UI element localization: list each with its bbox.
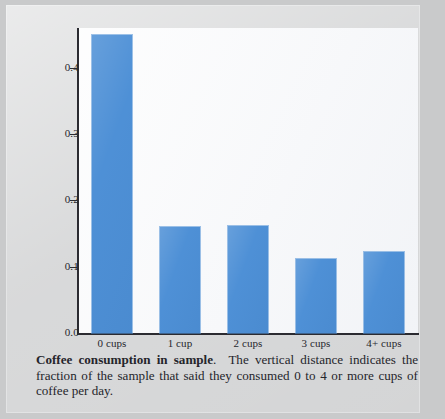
caption-title: Coffee consumption in sample [36,352,213,367]
y-tick-mark [70,134,79,135]
x-tick-label-3-cups: 3 cups [282,338,350,349]
bar-gloss [296,259,336,333]
x-axis-line [77,333,419,335]
x-tick-label-1-cup: 1 cup [146,338,214,349]
x-tick-label-4-cups: 4+ cups [350,338,418,349]
bar-gloss [364,252,404,333]
y-tick-0-0: 0.0 [0,333,79,334]
y-tick-mark [70,200,79,201]
y-tick-0-4: 0.4 [0,68,79,69]
bar-1-cup [160,227,200,333]
y-tick-label: 0.0 [43,327,79,338]
bar-0-cups [92,35,132,333]
figure-page: 0.00.10.20.30.4 0 cups1 cup2 cups3 cups4… [0,0,445,419]
bar-4-cups [364,252,404,333]
y-tick-mark [70,267,79,268]
figure-caption: Coffee consumption in sample. The vertic… [36,352,418,399]
caption-separator: . [213,352,216,367]
y-axis-line [77,28,79,334]
y-tick-0-1: 0.1 [0,267,79,268]
bar-gloss [228,226,268,333]
bar-2-cups [228,226,268,333]
y-tick-mark [70,68,79,69]
bar-gloss [92,35,132,333]
bar-3-cups [296,259,336,333]
x-tick-label-2-cups: 2 cups [214,338,282,349]
x-tick-label-0-cups: 0 cups [78,338,146,349]
y-tick-0-2: 0.2 [0,200,79,201]
y-tick-0-3: 0.3 [0,134,79,135]
bar-gloss [160,227,200,333]
